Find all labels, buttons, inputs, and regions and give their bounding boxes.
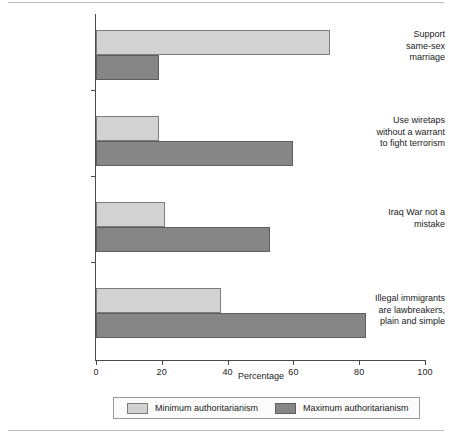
bar-max-3 <box>96 313 366 338</box>
bottom-divider-rule <box>8 430 444 431</box>
x-axis-tick-60 <box>293 360 294 365</box>
y-axis-tick <box>91 176 96 177</box>
bar-group-2 <box>96 202 425 252</box>
x-axis-tick-0 <box>96 360 97 365</box>
x-axis-title: Percentage <box>96 371 426 381</box>
legend-entry-maximum: Maximum authoritarianism <box>275 403 409 414</box>
x-axis-tick-20 <box>162 360 163 365</box>
plot-area: 0 20 40 60 80 100 <box>96 14 425 360</box>
bar-min-3 <box>96 288 221 313</box>
chart-figure: Support same-sex marriage Use wiretaps w… <box>0 0 452 434</box>
legend-entry-minimum: Minimum authoritarianism <box>127 403 258 414</box>
bar-group-1 <box>96 116 425 166</box>
bar-group-0 <box>96 30 425 80</box>
legend-swatch-minimum-icon <box>127 403 148 414</box>
x-axis-tick-80 <box>359 360 360 365</box>
legend-label-maximum: Maximum authoritarianism <box>303 403 409 413</box>
bar-min-1 <box>96 116 159 141</box>
top-divider-rule <box>8 2 444 3</box>
bar-min-2 <box>96 202 165 227</box>
bar-max-2 <box>96 227 270 252</box>
x-axis-line <box>95 360 426 361</box>
legend-label-minimum: Minimum authoritarianism <box>155 403 258 413</box>
bar-max-1 <box>96 141 293 166</box>
y-axis-tick <box>91 90 96 91</box>
x-axis-tick-40 <box>228 360 229 365</box>
x-axis-tick-100 <box>425 360 426 365</box>
bar-group-3 <box>96 288 425 338</box>
bar-max-0 <box>96 55 159 80</box>
y-axis-tick <box>91 262 96 263</box>
legend-swatch-maximum-icon <box>275 403 296 414</box>
chart-legend: Minimum authoritarianism Maximum authori… <box>113 397 420 419</box>
bar-min-0 <box>96 30 330 55</box>
